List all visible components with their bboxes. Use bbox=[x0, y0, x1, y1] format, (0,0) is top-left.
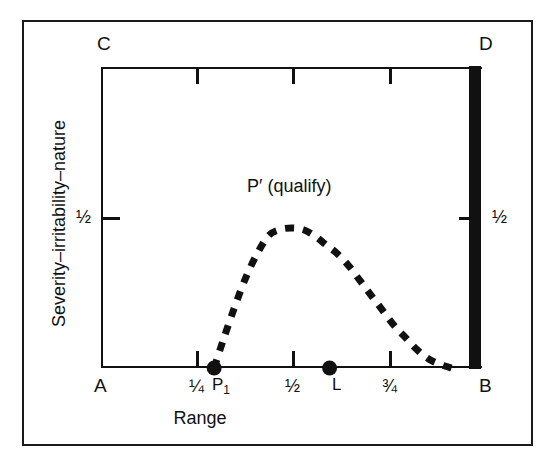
x-tick-label-quarter: ¼ bbox=[189, 377, 204, 395]
corner-label-c: C bbox=[97, 34, 111, 53]
left-tick-half bbox=[101, 217, 120, 220]
curve-annotation: P′ (qualify) bbox=[247, 176, 331, 197]
bottom-tick-half bbox=[292, 351, 295, 368]
figure-container: C D A B ¼ ½ ¾ P1 L ½ ½ Range Severity–ir… bbox=[0, 0, 544, 465]
x-tick-label-three-quarter: ¾ bbox=[382, 377, 397, 395]
x-tick-label-half: ½ bbox=[285, 377, 300, 395]
corner-label-d: D bbox=[479, 34, 493, 53]
bottom-tick-three-quarter bbox=[389, 351, 392, 368]
corner-label-a: A bbox=[94, 376, 107, 395]
right-tick-half bbox=[459, 217, 471, 220]
point-label-p1-subscript: 1 bbox=[223, 383, 230, 397]
top-tick-quarter bbox=[196, 67, 199, 84]
plot-area bbox=[101, 67, 482, 368]
point-label-p1: P1 bbox=[212, 376, 230, 396]
x-axis-title-text: Range bbox=[173, 408, 226, 428]
point-label-p1-letter: P bbox=[212, 375, 223, 394]
point-label-l: L bbox=[332, 376, 341, 393]
y-tick-label-half-left: ½ bbox=[76, 208, 91, 226]
bottom-tick-quarter bbox=[196, 351, 199, 368]
top-tick-three-quarter bbox=[389, 67, 392, 84]
corner-label-b: B bbox=[479, 376, 492, 395]
x-axis-title: Range bbox=[0, 408, 544, 429]
y-tick-label-half-right: ½ bbox=[492, 208, 507, 226]
top-tick-half bbox=[292, 67, 295, 84]
y-axis-title: Severity–irritability–nature bbox=[49, 79, 70, 369]
